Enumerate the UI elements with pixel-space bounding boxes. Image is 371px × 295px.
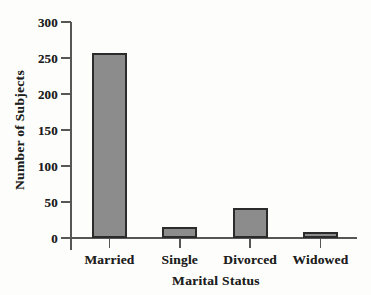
y-tick-250 [61,57,71,59]
y-tick-0 [61,237,71,239]
bar-single [162,227,197,238]
category-label-widowed: Widowed [293,253,349,267]
category-label-single: Single [162,253,198,267]
y-tick-label-250: 250 [24,52,58,65]
category-label-married: Married [84,253,134,267]
y-tick-200 [61,93,71,95]
y-tick-100 [61,165,71,167]
x-tick-divorced [249,238,251,248]
y-tick-300 [61,21,71,23]
x-axis-title: Marital Status [172,273,260,289]
y-tick-label-200: 200 [24,88,58,101]
bar-divorced [233,208,268,238]
y-axis [70,22,72,250]
y-tick-label-50: 50 [24,196,58,209]
y-tick-label-300: 300 [24,16,58,29]
y-tick-label-100: 100 [24,160,58,173]
category-label-divorced: Divorced [223,253,277,267]
y-axis-title: Number of Subjects [12,70,28,190]
bar-married [92,53,127,238]
x-tick-married [109,238,111,248]
y-tick-150 [61,129,71,131]
y-tick-label-150: 150 [24,124,58,137]
x-tick-widowed [320,238,322,248]
plot-area: 050100150200250300MarriedSingleDivorcedW… [0,0,371,295]
y-tick-50 [61,201,71,203]
marital-status-bar-chart: 050100150200250300MarriedSingleDivorcedW… [0,0,371,295]
y-tick-label-0: 0 [24,232,58,245]
x-tick-single [179,238,181,248]
